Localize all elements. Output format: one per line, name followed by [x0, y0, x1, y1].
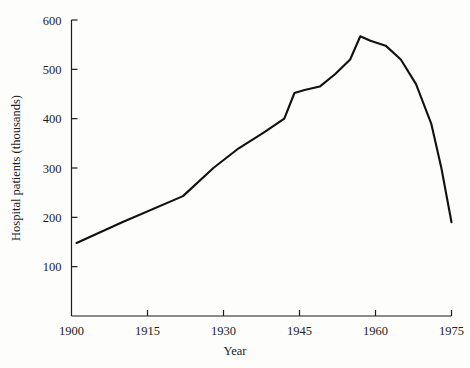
x-axis-tick-labels: 190019151930194519601975	[59, 324, 464, 338]
x-tick-label: 1930	[211, 324, 236, 338]
x-tick-label: 1960	[363, 324, 388, 338]
x-axis-title: Year	[223, 344, 247, 358]
chart-container: 100200300400500600 190019151930194519601…	[0, 0, 470, 368]
x-tick-label: 1945	[287, 324, 312, 338]
line-chart: 100200300400500600 190019151930194519601…	[0, 0, 470, 368]
y-axis-tick-labels: 100200300400500600	[43, 14, 62, 275]
y-tick-label: 100	[43, 260, 62, 274]
y-tick-label: 200	[43, 211, 62, 225]
x-tick-label: 1975	[439, 324, 464, 338]
x-axis-ticks	[148, 310, 452, 316]
y-tick-label: 600	[43, 14, 62, 28]
x-tick-label: 1900	[59, 324, 84, 338]
data-series-line	[77, 36, 452, 243]
y-axis-title: Hospital patients (thousands)	[9, 95, 23, 241]
y-tick-label: 500	[43, 63, 62, 77]
y-axis-ticks	[72, 20, 78, 267]
y-tick-label: 400	[43, 112, 62, 126]
x-tick-label: 1915	[135, 324, 160, 338]
y-tick-label: 300	[43, 162, 62, 176]
